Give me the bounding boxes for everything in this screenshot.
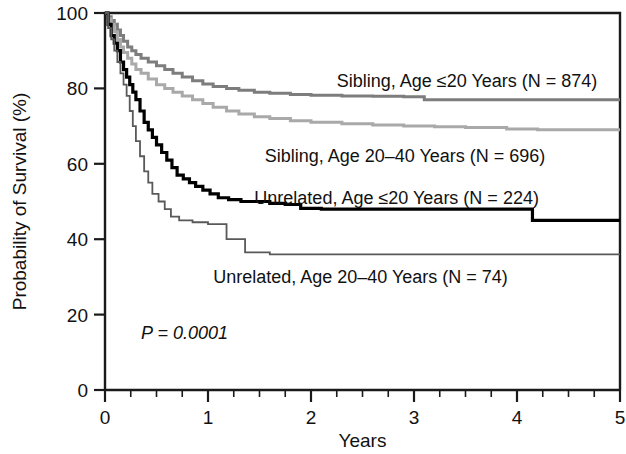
series-label-3: Unrelated, Age 20–40 Years (N = 74): [213, 267, 508, 287]
series-label-2: Unrelated, Age ≤20 Years (N = 224): [254, 188, 539, 208]
y-tick-label-40: 40: [67, 229, 88, 250]
y-tick-label-0: 0: [77, 380, 88, 401]
y-tick-label-80: 80: [67, 78, 88, 99]
x-tick-label-4: 4: [512, 407, 523, 428]
y-tick-label-60: 60: [67, 154, 88, 175]
series-label-0: Sibling, Age ≤20 Years (N = 874): [337, 71, 598, 91]
x-tick-label-2: 2: [306, 407, 317, 428]
x-tick-label-0: 0: [100, 407, 111, 428]
y-tick-label-100: 100: [56, 3, 88, 24]
x-tick-label-3: 3: [409, 407, 420, 428]
x-tick-label-1: 1: [203, 407, 214, 428]
survival-curve-3: [105, 13, 620, 254]
series-label-1: Sibling, Age 20–40 Years (N = 696): [265, 146, 546, 166]
y-tick-label-20: 20: [67, 305, 88, 326]
annotation-p-value: P = 0.0001: [141, 323, 228, 343]
kaplan-meier-plot: 020406080100012345YearsProbability of Su…: [0, 0, 626, 454]
x-axis-title: Years: [339, 430, 387, 451]
y-axis-title: Probability of Survival (%): [9, 93, 30, 311]
x-tick-label-5: 5: [615, 407, 626, 428]
survival-chart-figure: 020406080100012345YearsProbability of Su…: [0, 0, 626, 454]
